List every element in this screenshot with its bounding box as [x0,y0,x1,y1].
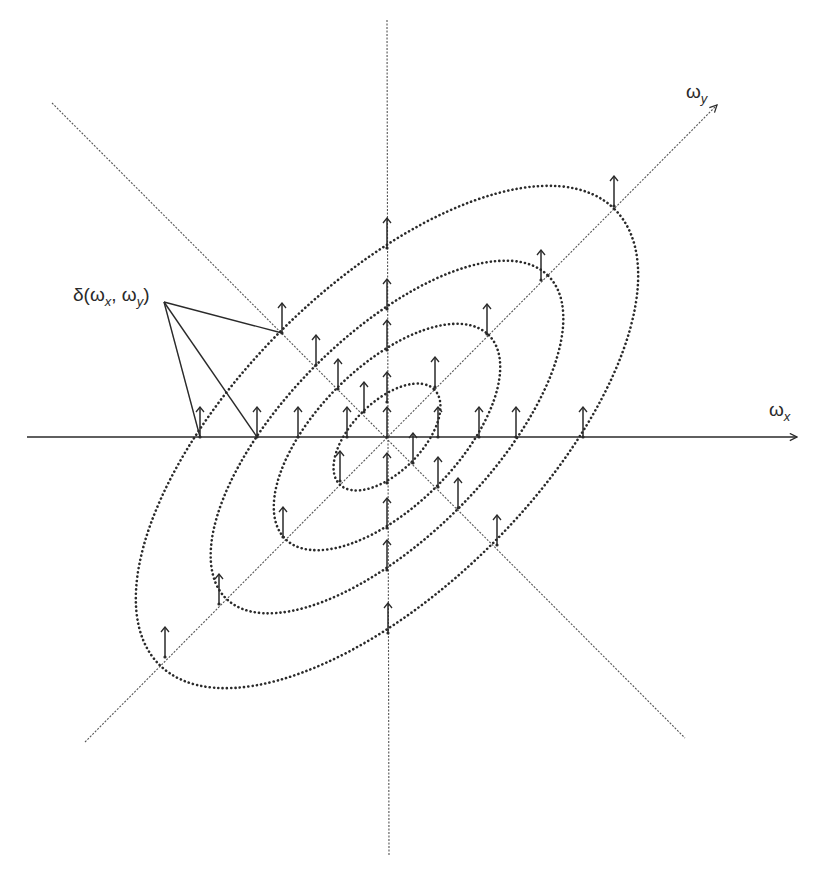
impulse-base-dot [514,435,517,438]
omega-y-subscript: y [701,91,708,106]
impulse-base-dot [612,204,615,207]
impulse-base-dot [433,385,436,388]
impulse-base-dot [338,479,341,482]
delta-suffix: ) [143,284,149,305]
impulse-base-dot [385,568,388,571]
impulse-base-dot [581,435,584,438]
impulse-base-dot [385,481,388,484]
annotation-pointers [164,302,282,437]
impulse-base-dot [456,506,459,509]
impulse-base-dot [385,307,388,310]
omega-x-axis-label: ωx [769,400,790,419]
frequency-domain-diagram: ωx ωy δ(ωx, ωy) [0,0,830,882]
annotation-pointer-line [164,302,200,437]
omega-y-axis-line [85,105,717,742]
omega-x-base: ω [769,399,784,420]
impulse-base-dot [336,387,339,390]
impulse-base-dot [385,348,388,351]
impulse-base-dot [280,331,283,334]
impulse-base-dot [385,435,388,438]
diagram-canvas [0,0,830,882]
delta-arg2-base: ω [122,284,137,305]
impulse-base-dot [386,631,389,634]
impulse-base-dot [296,435,299,438]
impulse-base-dot [436,485,439,488]
impulse-base-dot [217,602,220,605]
impulse-base-dot [362,410,365,413]
delta-prefix: δ( [73,284,90,305]
axes [27,20,797,855]
impulse-base-dot [436,435,439,438]
delta-arg1-subscript: x [105,294,112,309]
delta-arg2-subscript: y [137,294,144,309]
anti-diagonal-line [52,103,685,738]
omega-y-base: ω [686,81,701,102]
impulse-base-dot [255,435,258,438]
impulse-base-dot [485,332,488,335]
delta-arg1-base: ω [90,284,105,305]
impulse-base-dot [411,461,414,464]
omega-x-subscript: x [784,409,791,424]
impulse-base-dot [345,435,348,438]
omega-y-axis-label: ωy [686,82,707,101]
impulse-base-dot [198,435,201,438]
impulse-base-dot [385,526,388,529]
impulse-base-dot [385,400,388,403]
impulse-base-dot [495,543,498,546]
impulse-base-dot [539,278,542,281]
impulse-base-dot [163,655,166,658]
impulse-base-dot [477,435,480,438]
impulse-arrows [163,176,615,659]
delta-function-label: δ(ωx, ωy) [73,285,149,304]
delta-separator: , [111,284,122,305]
impulse-base-dot [314,363,317,366]
impulse-base-dot [281,535,284,538]
impulse-base-dot [385,246,388,249]
